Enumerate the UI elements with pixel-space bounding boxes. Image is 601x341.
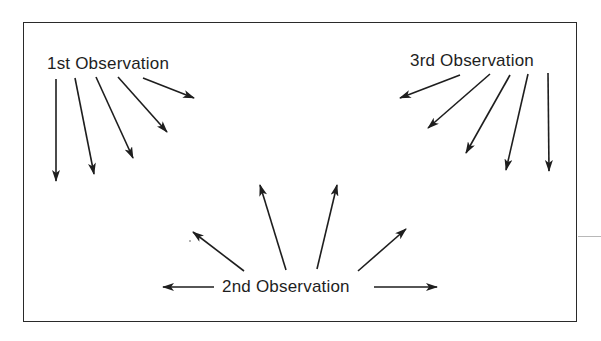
observation-diagram: 1st Observation 2nd Observation 3rd Obse… <box>0 0 601 341</box>
arrow <box>506 74 528 170</box>
arrow <box>143 78 194 98</box>
arrow <box>96 77 133 158</box>
arrow <box>428 74 490 128</box>
arrow <box>358 229 406 271</box>
arrow <box>260 185 286 270</box>
arrow <box>548 73 549 171</box>
third-observation-label: 3rd Observation <box>410 52 534 69</box>
first-observation-arrows <box>56 77 194 181</box>
arrow <box>400 75 460 98</box>
arrow <box>75 78 94 174</box>
arrow <box>193 232 244 271</box>
third-observation-arrows <box>400 73 549 171</box>
arrow <box>466 75 510 153</box>
second-observation-label: 2nd Observation <box>222 278 350 295</box>
arrow <box>317 185 337 269</box>
first-observation-label: 1st Observation <box>47 55 169 72</box>
second-observation-arrows <box>163 185 437 287</box>
